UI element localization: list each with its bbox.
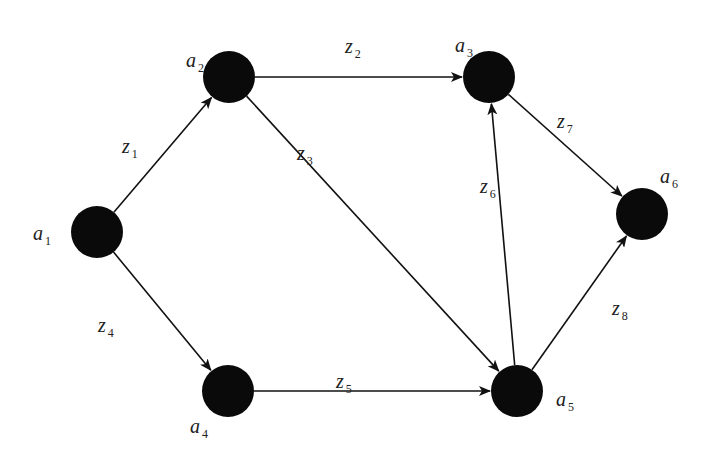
- edge-z6-arrow: [491, 104, 514, 365]
- edge-label-z2-base: z: [344, 35, 353, 57]
- edge-label-z5-subscript: 5: [346, 382, 352, 396]
- edge-label-z1-base: z: [121, 135, 130, 157]
- edge-label-z2: z2: [344, 35, 361, 61]
- edge-label-z5: z5: [335, 370, 352, 396]
- edge-label-z1: z1: [121, 135, 138, 161]
- edge-label-z1-subscript: 1: [132, 147, 138, 161]
- edge-label-z7: z7: [556, 110, 573, 136]
- edge-label-z8-subscript: 8: [622, 309, 628, 323]
- edge-label-z7-base: z: [556, 110, 565, 132]
- node-label-a1: a1: [33, 222, 51, 248]
- node-label-a3: a3: [455, 34, 473, 60]
- node-label-a6-subscript: 6: [672, 177, 678, 191]
- node-label-a5-subscript: 5: [568, 400, 574, 414]
- node-label-a2-subscript: 2: [198, 61, 204, 75]
- node-label-a5-base: a: [556, 388, 566, 410]
- edge-label-z8: z8: [611, 297, 628, 323]
- node-label-a1-base: a: [33, 222, 43, 244]
- nodes-layer: [71, 51, 668, 417]
- edge-label-z3: z3: [296, 142, 313, 168]
- node-label-a5: a5: [556, 388, 574, 414]
- edge-label-z4-subscript: 4: [108, 326, 114, 340]
- labels-layer: z1z2z3z4z5z6z7z8a1a2a3a4a5a6: [33, 34, 678, 441]
- edge-label-z3-base: z: [296, 142, 305, 164]
- node-label-a4-subscript: 4: [202, 427, 208, 441]
- edge-label-z6-subscript: 6: [490, 187, 496, 201]
- node-label-a3-base: a: [455, 34, 465, 56]
- edge-z3-arrow: [247, 96, 499, 371]
- edge-label-z4-base: z: [97, 314, 106, 336]
- edge-label-z2-subscript: 2: [355, 47, 361, 61]
- edge-label-z6: z6: [479, 175, 496, 201]
- node-a4: [202, 365, 254, 417]
- edge-z4-arrow: [114, 252, 211, 370]
- edge-label-z8-base: z: [611, 297, 620, 319]
- node-a1: [71, 206, 123, 258]
- node-label-a4: a4: [190, 415, 208, 441]
- node-label-a4-base: a: [190, 415, 200, 437]
- edge-z7-arrow: [508, 94, 622, 196]
- node-a5: [491, 365, 543, 417]
- node-label-a3-subscript: 3: [467, 46, 473, 60]
- edge-label-z4: z4: [97, 314, 114, 340]
- node-a2: [203, 51, 255, 103]
- node-label-a2: a2: [186, 49, 204, 75]
- node-label-a1-subscript: 1: [45, 234, 51, 248]
- node-a6: [616, 188, 668, 240]
- edge-label-z7-subscript: 7: [567, 122, 573, 136]
- node-label-a2-base: a: [186, 49, 196, 71]
- edges-layer: [114, 77, 627, 391]
- edge-label-z3-subscript: 3: [307, 154, 313, 168]
- network-graph: z1z2z3z4z5z6z7z8a1a2a3a4a5a6: [0, 0, 713, 455]
- node-label-a6-base: a: [660, 165, 670, 187]
- edge-label-z6-base: z: [479, 175, 488, 197]
- node-label-a6: a6: [660, 165, 678, 191]
- edge-label-z5-base: z: [335, 370, 344, 392]
